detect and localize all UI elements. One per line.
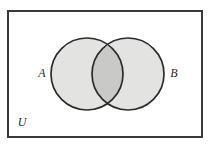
- set-b-label: B: [170, 66, 178, 80]
- venn-diagram-figure: A B U: [0, 0, 214, 146]
- universe-label: U: [18, 115, 28, 129]
- set-a-label: A: [37, 66, 46, 80]
